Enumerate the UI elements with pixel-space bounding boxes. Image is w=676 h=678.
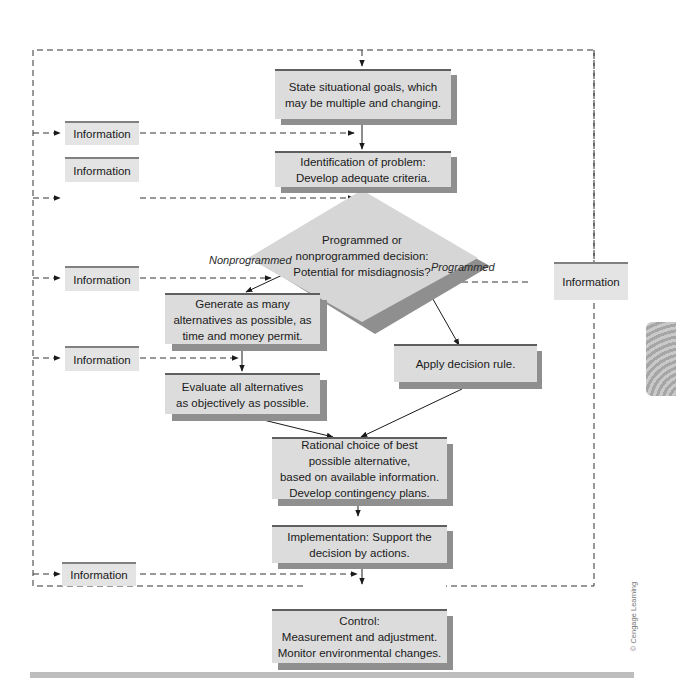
- information-label: Information: [73, 128, 131, 140]
- information-box-5: Information: [62, 562, 136, 586]
- branch-label-nonprogrammed: Nonprogrammed: [209, 254, 292, 266]
- information-box-1: Information: [65, 121, 139, 145]
- page-tab-decoration: [646, 322, 676, 396]
- copyright-notice: © Cengage Learning: [629, 582, 638, 652]
- step-apply-decision-rule: Apply decision rule.: [394, 344, 537, 382]
- step-evaluate-alternatives-text: Evaluate all alternatives as objectively…: [176, 379, 309, 411]
- bottom-divider-bar: [30, 672, 634, 678]
- step-identify-problem-text: Identification of problem: Develop adequ…: [296, 154, 430, 186]
- step-generate-alternatives-text: Generate as many alternatives as possibl…: [173, 296, 311, 344]
- decision-diamond-text: Programmed or nonprogrammed decision: Po…: [282, 232, 442, 280]
- step-control-text: Control: Measurement and adjustment. Mon…: [278, 613, 442, 661]
- step-implementation: Implementation: Support the decision by …: [272, 525, 447, 563]
- information-box-4: Information: [65, 346, 139, 371]
- step-apply-decision-rule-text: Apply decision rule.: [416, 356, 516, 372]
- information-box-2: Information: [65, 157, 139, 182]
- step-evaluate-alternatives: Evaluate all alternatives as objectively…: [165, 373, 320, 414]
- information-label: Information: [562, 276, 620, 288]
- information-box-3: Information: [65, 266, 139, 291]
- information-label: Information: [73, 354, 131, 366]
- step-control: Control: Measurement and adjustment. Mon…: [272, 609, 447, 663]
- step-state-goals-text: State situational goals, which may be mu…: [285, 79, 441, 111]
- step-rational-choice-text: Rational choice of best possible alterna…: [280, 437, 439, 501]
- step-identify-problem: Identification of problem: Develop adequ…: [275, 151, 451, 187]
- information-label: Information: [73, 274, 131, 286]
- information-label: Information: [70, 569, 128, 581]
- step-implementation-text: Implementation: Support the decision by …: [287, 529, 431, 561]
- step-rational-choice: Rational choice of best possible alterna…: [272, 437, 447, 499]
- information-label: Information: [73, 165, 131, 177]
- step-state-goals: State situational goals, which may be mu…: [275, 69, 451, 119]
- step-generate-alternatives: Generate as many alternatives as possibl…: [165, 293, 320, 344]
- information-box-right: Information: [554, 262, 628, 300]
